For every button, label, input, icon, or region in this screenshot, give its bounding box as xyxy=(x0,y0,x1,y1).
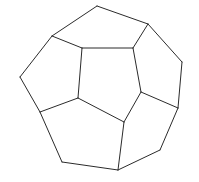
edge-left-outer-to-left-junction xyxy=(20,77,40,112)
center-pentagon xyxy=(78,48,141,122)
figure-canvas xyxy=(0,0,199,182)
edge-bottom-left-to-bottom-junction xyxy=(62,162,118,170)
lower-left-pentagon xyxy=(40,98,124,170)
edge-left-junction-to-center-left xyxy=(40,98,78,112)
edges-group xyxy=(20,6,182,170)
edge-upper-left-to-center-top-left xyxy=(52,36,82,48)
edge-center-top-left-to-center-left xyxy=(78,48,82,98)
edge-upper-right-to-right-outer xyxy=(148,24,182,62)
edge-center-right-to-bottom-junction xyxy=(118,122,124,170)
edge-left-junction-to-bottom-left xyxy=(40,112,62,162)
edge-right-outer-to-right-junction xyxy=(178,62,182,108)
edge-center-top-right-to-center-mid-right xyxy=(133,48,141,92)
edge-upper-right-to-center-top-right xyxy=(133,24,148,48)
edge-center-left-to-center-right xyxy=(78,98,124,122)
edge-center-mid-right-to-right-junction xyxy=(141,92,178,108)
edge-top-apex-to-upper-right xyxy=(97,6,148,24)
edge-bottom-junction-to-bottom-right xyxy=(118,150,160,170)
edge-right-junction-to-bottom-right xyxy=(160,108,178,150)
upper-left-pentagon xyxy=(20,36,82,112)
edge-center-mid-right-to-center-right xyxy=(124,92,141,122)
edge-top-apex-to-upper-left xyxy=(52,6,97,36)
faces-group xyxy=(20,6,182,170)
dodecahedron-drawing xyxy=(0,0,199,182)
edge-upper-left-to-left-outer xyxy=(20,36,52,77)
